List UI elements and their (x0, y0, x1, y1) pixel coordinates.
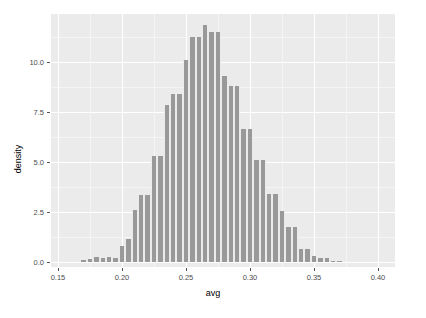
y-axis-tick-label: 10.0 (29, 58, 44, 67)
y-axis-tick (47, 112, 50, 113)
y-axis-tick (47, 212, 50, 213)
gridline-minor-vertical (346, 14, 347, 267)
gridline-major-vertical (314, 14, 315, 267)
y-axis-tick-label: 2.5 (34, 208, 44, 217)
gridline-major-vertical (122, 14, 123, 267)
x-axis-tick-label: 0.15 (51, 273, 66, 282)
gridline-minor-horizontal (51, 37, 395, 38)
y-axis-tick (47, 162, 50, 163)
gridline-major-horizontal (51, 262, 395, 263)
x-axis-tick (378, 268, 379, 271)
y-axis-tick-label: 5.0 (34, 158, 44, 167)
x-axis-tick-label: 0.35 (307, 273, 322, 282)
gridline-minor-vertical (90, 14, 91, 267)
x-axis-tick-label: 0.40 (371, 273, 386, 282)
gridline-major-vertical (58, 14, 59, 267)
histogram-bar (336, 261, 342, 262)
x-axis-tick-label: 0.20 (115, 273, 130, 282)
y-axis-tick (47, 62, 50, 63)
plot-panel (51, 14, 395, 267)
y-axis-title: density (13, 145, 23, 174)
x-axis-tick (250, 268, 251, 271)
y-axis-tick-label: 7.5 (34, 108, 44, 117)
x-axis-tick (122, 268, 123, 271)
x-axis-title: avg (0, 288, 426, 298)
x-axis-tick (186, 268, 187, 271)
x-axis-tick-label: 0.30 (243, 273, 258, 282)
x-axis-tick (314, 268, 315, 271)
x-axis-tick (58, 268, 59, 271)
gridline-major-horizontal (51, 62, 395, 63)
histogram-plot: 0.150.200.250.300.350.400.02.55.07.510.0… (0, 0, 426, 318)
y-axis-tick-label: 0.0 (34, 258, 44, 267)
y-axis-tick (47, 262, 50, 263)
gridline-major-vertical (378, 14, 379, 267)
x-axis-tick-label: 0.25 (179, 273, 194, 282)
